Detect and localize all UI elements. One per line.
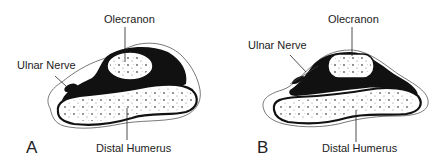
distal-humerus-label-a: Distal Humerus bbox=[96, 142, 172, 154]
panel-a: Olecranon Ulnar Nerve Distal Humerus A bbox=[17, 13, 200, 157]
distal-humerus-label-b: Distal Humerus bbox=[322, 142, 398, 154]
panel-letter-a: A bbox=[26, 138, 38, 157]
olecranon-label-b: Olecranon bbox=[328, 13, 379, 25]
ulnar-nerve-label-a: Ulnar Nerve bbox=[17, 59, 76, 71]
elbow-cross-section-diagram: Olecranon Ulnar Nerve Distal Humerus A O… bbox=[0, 0, 437, 160]
panel-b: Olecranon Ulnar Nerve Distal Humerus B bbox=[248, 13, 428, 157]
panel-letter-b: B bbox=[257, 138, 268, 157]
olecranon-label-a: Olecranon bbox=[104, 13, 155, 25]
ulnar-nerve-label-b: Ulnar Nerve bbox=[248, 39, 307, 51]
